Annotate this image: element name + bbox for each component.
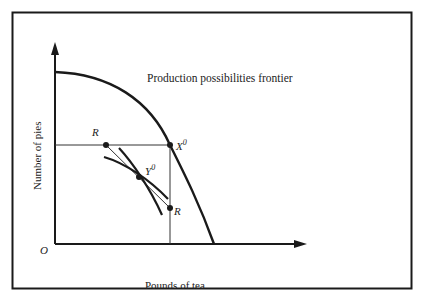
point-y0 — [136, 174, 142, 180]
r-top-label: R — [91, 126, 99, 138]
x-axis-arrow-icon — [294, 240, 307, 248]
tangent-curve-a — [104, 157, 168, 199]
point-x0 — [167, 142, 173, 148]
ppf-curve — [55, 72, 214, 244]
x0-label: X0 — [175, 138, 187, 152]
diagram-canvas: Production possibilities frontier Pounds… — [0, 0, 423, 302]
y0-label: Y0 — [145, 163, 155, 177]
y-axis-label: Number of pies — [31, 122, 43, 190]
tangent-curve-b — [119, 148, 162, 215]
origin-label: O — [40, 244, 48, 256]
r-bottom-label: R — [173, 205, 181, 217]
y-axis-arrow-icon — [51, 42, 59, 55]
x-axis-label: Pounds of tea — [145, 279, 205, 291]
point-r-bottom — [167, 205, 173, 211]
diagram-frame — [13, 13, 412, 289]
point-r-top — [103, 142, 109, 148]
ppf-label: Production possibilities frontier — [147, 72, 293, 85]
